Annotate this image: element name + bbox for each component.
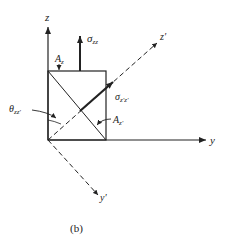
sigma-zprime-zprime-label: σz′z′ — [115, 91, 129, 104]
y-prime-axis-label: y′ — [99, 192, 107, 203]
sigma-zz-label: σzz — [87, 32, 98, 46]
stress-transformation-diagram: z y z′ y′ σzz σz′z′ Az Az′ θzz′ (b) — [0, 0, 227, 244]
sigma-zprime-zprime-arrow — [80, 82, 113, 111]
y-prime-axis — [48, 140, 98, 195]
y-axis-label: y — [209, 134, 215, 146]
inclined-plane-line — [48, 71, 106, 140]
z-prime-axis-label: z′ — [159, 31, 167, 42]
figure-caption: (b) — [70, 222, 83, 235]
area-zprime-leader — [97, 119, 111, 125]
area-zprime-label: Az′ — [112, 114, 124, 127]
z-axis-label: z — [44, 11, 50, 23]
theta-label: θzz′ — [9, 103, 21, 116]
theta-leader — [32, 110, 61, 124]
